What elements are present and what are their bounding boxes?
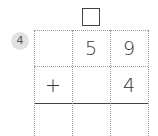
cell-r2-c3: 4 xyxy=(110,67,148,103)
cell-r1-c3: 9 xyxy=(110,30,148,66)
grid-line xyxy=(148,30,149,136)
cell-r2-c2 xyxy=(72,67,110,103)
answer-cell-1[interactable] xyxy=(34,104,72,136)
cell-r1-c1 xyxy=(34,30,72,66)
answer-cell-2[interactable] xyxy=(72,104,110,136)
plus-sign: + xyxy=(34,67,72,103)
addition-grid: 5 9 + 4 xyxy=(34,30,148,136)
answer-cell-3[interactable] xyxy=(110,104,148,136)
problem-number-badge: 4 xyxy=(11,32,29,50)
cell-r1-c2: 5 xyxy=(72,30,110,66)
carry-answer-box[interactable] xyxy=(82,8,100,26)
